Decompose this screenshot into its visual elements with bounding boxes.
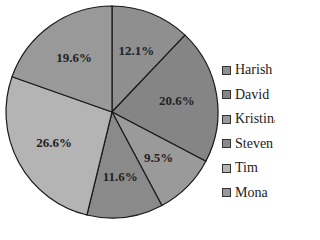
slice-percent-label: 12.1% [119,43,155,58]
legend-swatch [222,188,231,197]
legend-label: Tim [235,160,258,176]
slice-percent-label: 19.6% [56,50,92,65]
legend-swatch [222,90,231,99]
legend-label: Steven [235,136,273,152]
legend-item-david: David [222,83,275,108]
legend-swatch [222,139,231,148]
legend-label: Mona [235,185,268,201]
legend-swatch [222,164,231,173]
legend-swatch [222,115,231,124]
legend-swatch [222,66,231,75]
slice-percent-label: 20.6% [159,93,195,108]
legend-item-steven: Steven [222,132,275,157]
legend-item-kristina: Kristina [222,107,275,132]
legend-item-tim: Tim [222,156,275,181]
slice-percent-label: 26.6% [36,135,72,150]
legend: Harish David Kristina Steven Tim Mona [222,58,275,205]
slice-percent-label: 11.6% [103,169,138,184]
legend-label: Harish [235,62,272,78]
legend-item-mona: Mona [222,181,275,206]
legend-item-harish: Harish [222,58,275,83]
legend-label: David [235,87,269,103]
legend-label: Kristina [235,111,275,127]
slice-percent-label: 9.5% [144,150,173,165]
